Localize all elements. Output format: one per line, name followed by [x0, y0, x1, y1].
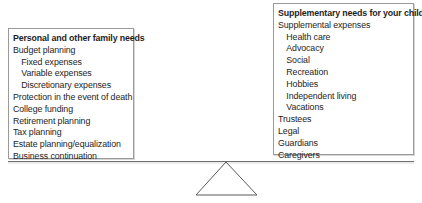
list-subitem: Vacations [278, 101, 399, 113]
list-subitem: Health care [278, 31, 399, 43]
list-subitem: Advocacy [278, 42, 399, 54]
needs-list: Budget planningFixed expensesVariable ex… [13, 44, 129, 162]
list-item: Estate planning/equalization [13, 138, 120, 150]
list-item: Business continuation [13, 150, 120, 162]
list-item: Protection in the event of death [13, 91, 120, 103]
list-item: Supplemental expenses [278, 19, 399, 31]
needs-list: Supplemental expensesHealth careAdvocacy… [278, 19, 409, 161]
fulcrum-triangle [196, 162, 257, 195]
list-item: Trustees [278, 113, 399, 125]
personal-family-needs-panel: Personal and other family needs Budget p… [8, 28, 134, 159]
list-item: Tax planning [13, 126, 120, 138]
panel-title: Personal and other family needs [13, 32, 120, 44]
list-subitem: Independent living [278, 90, 399, 102]
list-item: Budget planning [13, 44, 120, 56]
list-subitem: Recreation [278, 66, 399, 78]
list-subitem: Variable expenses [13, 67, 120, 79]
child-supplementary-needs-panel: Supplementary needs for your child Suppl… [273, 3, 414, 155]
list-item: Guardians [278, 137, 399, 149]
list-subitem: Fixed expenses [13, 56, 120, 68]
list-item: Caregivers [278, 149, 399, 161]
list-item: Legal [278, 125, 399, 137]
list-item: College funding [13, 103, 120, 115]
list-subitem: Hobbies [278, 78, 399, 90]
list-item: Retirement planning [13, 115, 120, 127]
list-subitem: Discretionary expenses [13, 79, 120, 91]
list-subitem: Social [278, 54, 399, 66]
panel-title: Supplementary needs for your child [278, 7, 399, 19]
